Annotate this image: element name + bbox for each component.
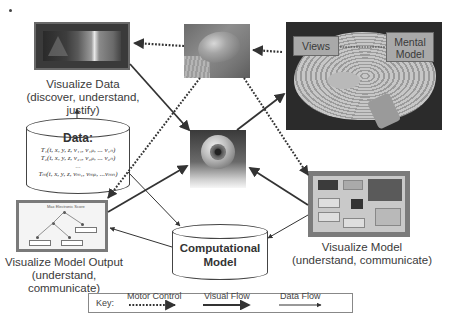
legend-key: Key: Motor Control Visual Flow Data Flow — [88, 293, 353, 313]
visual-flow-arrow — [130, 64, 189, 130]
motor-control-arrow — [108, 78, 200, 198]
motor-control-arrow — [244, 78, 308, 175]
data-flow-arrow — [268, 215, 308, 238]
visual-flow-arrow — [250, 168, 308, 205]
data-flow-arrow — [110, 228, 172, 247]
visual-flow-arrow — [108, 166, 187, 212]
flow-arrows — [0, 0, 450, 334]
motor-control-arrow — [134, 43, 184, 46]
motor-control-arrow — [253, 50, 282, 52]
data-flow-arrow — [128, 172, 180, 226]
visual-flow-arrow — [237, 94, 284, 130]
